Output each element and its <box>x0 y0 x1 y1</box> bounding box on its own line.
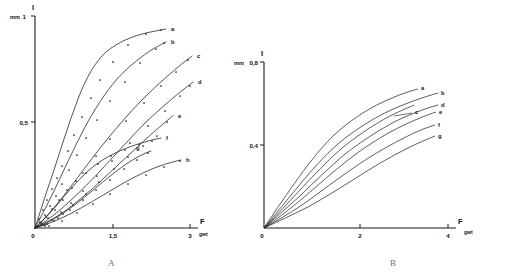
panel-b-y-tick-08: 0,8 <box>249 59 258 66</box>
panel-a-x-tick-15: 1,5 <box>109 232 118 239</box>
curve-b-f <box>264 125 435 228</box>
panel-a-label-a: a <box>171 26 175 32</box>
panel-a-data-points <box>38 29 191 227</box>
panel-a-y-tick-05: 0,5 <box>19 119 28 126</box>
panel-b-label-f: f <box>438 122 440 128</box>
panel-a-caption: A <box>108 258 115 268</box>
panel-a-x-tick-3: 3 <box>188 232 192 239</box>
panel-b-x-tick-4: 4 <box>446 232 450 239</box>
panel-a-y-axis-variable: I <box>32 3 34 12</box>
panel-b-y-axis-unit: mm <box>234 60 244 66</box>
panel-a-label-f: f <box>166 135 168 141</box>
panel-b-x-tick-0: 0 <box>260 232 264 239</box>
panel-a-label-d: d <box>198 79 202 85</box>
curve-e <box>35 116 173 228</box>
curve-h <box>35 160 181 228</box>
panel-a-y-axis-unit: mm <box>10 14 20 20</box>
panel-b-x-axis-subscript: gwt <box>464 229 473 235</box>
panel-a-label-e: e <box>178 113 182 119</box>
panel-a-x-axis-subscript: gwt <box>199 231 208 237</box>
curve-c <box>35 56 192 228</box>
panel-a: I mm 1 0,5 0 1,5 3 F gwt <box>0 0 250 280</box>
panel-b-caption: B <box>390 258 397 268</box>
panel-a-y-tick-1: 1 <box>23 13 27 20</box>
curve-b-d <box>264 105 438 228</box>
panel-a-label-g: g <box>136 145 140 151</box>
panel-b-label-a: a <box>421 85 425 91</box>
curve-a <box>35 29 166 228</box>
panel-b-label-b: b <box>441 90 445 96</box>
panel-b-curves <box>264 89 438 228</box>
panel-b-label-e: e <box>439 109 443 115</box>
panel-b-leader-c <box>394 113 412 116</box>
panel-b-label-d: d <box>441 102 445 108</box>
panel-b-plot: I mm 0,8 0,4 0 2 4 F gwt a <box>232 0 505 280</box>
panel-b-y-tick-04: 0,4 <box>249 142 258 149</box>
panel-b-x-tick-2: 2 <box>358 232 362 239</box>
panel-a-plot: I mm 1 0,5 0 1,5 3 F gwt <box>0 0 250 280</box>
panel-b-x-axis-variable: F <box>458 217 463 226</box>
panel-b-label-c: c <box>415 109 419 115</box>
panel-b-y-axis-variable: I <box>261 49 263 58</box>
panel-a-label-h: h <box>186 157 190 163</box>
figure-container: I mm 1 0,5 0 1,5 3 F gwt <box>0 0 505 280</box>
curve-b <box>35 42 166 228</box>
panel-b-label-g: g <box>438 133 442 139</box>
panel-a-curve-labels: a b c d e f g h <box>136 26 202 163</box>
panel-b: I mm 0,8 0,4 0 2 4 F gwt a <box>232 0 505 280</box>
panel-a-label-b: b <box>171 39 175 45</box>
curve-b-g <box>264 136 435 228</box>
panel-a-label-c: c <box>197 53 201 59</box>
panel-a-x-tick-0: 0 <box>31 232 35 239</box>
panel-b-axes <box>260 62 456 228</box>
panel-a-curves <box>35 29 193 228</box>
panel-a-x-axis-variable: F <box>200 217 205 226</box>
